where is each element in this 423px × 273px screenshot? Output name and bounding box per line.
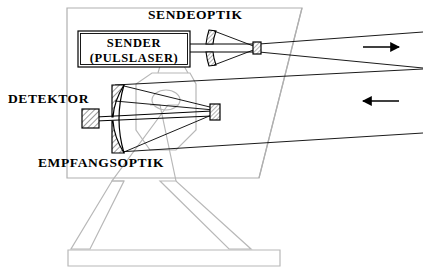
tripod-leg-left (71, 181, 124, 249)
housing-right-diagonal (259, 8, 302, 178)
transmit-beam-upper-edge (259, 32, 423, 44)
label-sendeoptik: SENDEOPTIK (148, 7, 243, 22)
transmit-primary-mirror-upper-segment (206, 30, 216, 44)
transmit-primary-mirror-lower-segment (206, 52, 216, 66)
lidar-diagram: SENDEOPTIK SENDER (PULSLASER) DETEKTOR E… (0, 0, 423, 273)
detector-element (82, 109, 99, 128)
transmit-ray-lower (214, 49, 256, 65)
transmit-secondary-mirror-body (253, 42, 261, 54)
receive-primary-mirror (112, 85, 124, 153)
tripod-base-plate (68, 250, 280, 266)
beam-direction-arrows (363, 47, 399, 101)
receive-ray-mid-upper (115, 101, 214, 110)
label-empfangsoptik: EMPFANGSOPTIK (38, 155, 164, 170)
tripod-head-block (136, 73, 196, 150)
receive-beam-lower-edge (118, 133, 423, 152)
receive-primary-mirror-concave-face (119, 85, 124, 153)
transmit-secondary-mirror (253, 42, 261, 54)
receive-secondary-mirror (210, 104, 220, 120)
label-sender: SENDER (107, 36, 162, 50)
label-detektor: DETEKTOR (8, 91, 89, 106)
transmit-beam-envelope (259, 32, 423, 68)
transmit-ray-upper (214, 31, 256, 47)
transmit-primary-mirror (206, 30, 216, 66)
receive-cone-rays (115, 86, 214, 152)
detector-element-body (82, 109, 99, 128)
lidar-schematic-svg: SENDEOPTIK SENDER (PULSLASER) DETEKTOR E… (0, 0, 423, 273)
transmit-beam-lower-edge (259, 52, 423, 68)
laser-emission-duct (190, 44, 256, 52)
tripod-leg-right (160, 181, 251, 249)
label-pulslaser: (PULSLASER) (90, 51, 179, 65)
receive-secondary-mirror-body (210, 104, 220, 120)
receive-beam-upper-edge (115, 69, 423, 85)
transmit-cone-rays (214, 31, 256, 65)
